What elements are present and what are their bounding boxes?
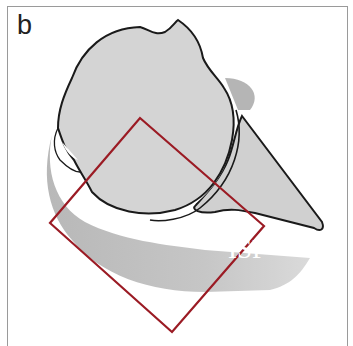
panel-label: b (17, 12, 32, 39)
isp-label: ISP (228, 234, 267, 264)
